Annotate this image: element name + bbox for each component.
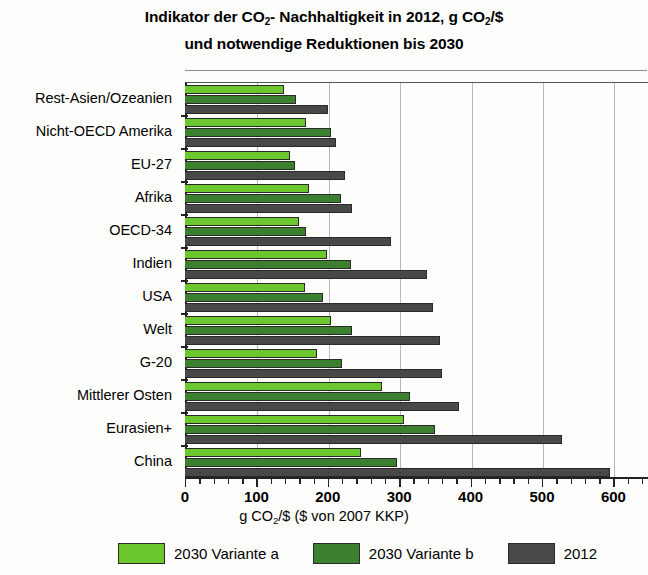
category-tick-9 — [181, 379, 188, 381]
x-tick-60 — [228, 479, 229, 484]
category-tick-5 — [181, 247, 188, 249]
bar-indien-2012 — [185, 270, 427, 280]
legend-item-1[interactable]: 2030 Variante a — [118, 543, 279, 564]
x-tick-580 — [599, 479, 600, 484]
legend-item-2[interactable]: 2030 Variante b — [313, 543, 474, 564]
bar-eurasien--2012 — [185, 435, 562, 445]
x-tick-40 — [214, 479, 215, 484]
x-tick-600 — [613, 479, 614, 487]
x-tick-380 — [456, 479, 457, 484]
category-label-oecd-34: OECD-34 — [109, 222, 172, 238]
category-label-eurasien-: Eurasien+ — [106, 420, 172, 436]
legend-label-3: 2012 — [564, 545, 597, 562]
x-axis-title: g CO2/$ ($ von 2007 KKP) — [0, 508, 648, 524]
title-separator — [185, 70, 647, 71]
legend-label-1: 2030 Variante a — [174, 545, 279, 562]
x-tick-480 — [528, 479, 529, 484]
bar-rest-asien-ozeanien-2030-variante-b — [185, 95, 296, 105]
bar-rest-asien-ozeanien-2012 — [185, 105, 328, 115]
legend-item-3[interactable]: 2012 — [508, 543, 597, 564]
bar-afrika-2030-variante-b — [185, 194, 341, 204]
category-label-usa: USA — [142, 288, 172, 304]
category-tick-8 — [181, 346, 188, 348]
category-label-welt: Welt — [143, 321, 172, 337]
bar-afrika-2012 — [185, 204, 352, 214]
category-tick-1 — [181, 115, 188, 117]
x-tick-260 — [371, 479, 372, 484]
title-sub-1: 2 — [265, 16, 270, 27]
x-tick-540 — [571, 479, 572, 484]
category-tick-10 — [181, 412, 188, 414]
gridline-500 — [543, 83, 544, 478]
bar-eurasien--2030-variante-a — [185, 415, 404, 425]
category-label-mittlerer-osten: Mittlerer Osten — [77, 387, 172, 403]
x-tick-20 — [199, 479, 200, 484]
bar-mittlerer-osten-2030-variante-b — [185, 392, 410, 402]
legend-swatch-1 — [118, 543, 165, 564]
bar-welt-2030-variante-a — [185, 316, 331, 326]
category-tick-6 — [181, 280, 188, 282]
bar-usa-2030-variante-b — [185, 293, 323, 303]
x-tick-560 — [585, 479, 586, 484]
x-axis-title-sub: 2 — [273, 515, 278, 526]
chart-title: Indikator der CO2- Nachhaltigkeit in 201… — [0, 4, 648, 56]
legend-label-2: 2030 Variante b — [369, 545, 474, 562]
title-sub-2: 2 — [485, 16, 490, 27]
bar-nicht-oecd-amerika-2030-variante-b — [185, 128, 331, 138]
x-tick-140 — [285, 479, 286, 484]
bar-oecd-34-2030-variante-a — [185, 217, 299, 227]
bar-eu-27-2030-variante-b — [185, 161, 295, 171]
category-tick-7 — [181, 313, 188, 315]
x-tick-500 — [542, 479, 543, 487]
x-tick-label-100: 100 — [244, 488, 269, 505]
x-axis-title-main: g CO — [239, 508, 273, 524]
x-tick-200 — [328, 479, 329, 487]
bar-usa-2012 — [185, 303, 433, 313]
x-tick-120 — [271, 479, 272, 484]
x-axis-line — [185, 477, 648, 479]
category-label-china: China — [134, 453, 172, 469]
category-label-g-20: G-20 — [140, 354, 172, 370]
category-label-nicht-oecd-amerika: Nicht-OECD Amerika — [36, 123, 172, 139]
bar-indien-2030-variante-b — [185, 260, 351, 270]
bar-rest-asien-ozeanien-2030-variante-a — [185, 85, 284, 95]
x-tick-360 — [442, 479, 443, 484]
category-label-indien: Indien — [132, 255, 172, 271]
legend-swatch-2 — [313, 543, 360, 564]
bar-eu-27-2012 — [185, 171, 345, 181]
x-tick-label-200: 200 — [315, 488, 340, 505]
x-tick-80 — [242, 479, 243, 484]
gridline-400 — [472, 83, 473, 478]
bar-g-20-2030-variante-b — [185, 359, 342, 369]
x-tick-520 — [556, 479, 557, 484]
bar-oecd-34-2030-variante-b — [185, 227, 306, 237]
bar-china-2030-variante-a — [185, 448, 361, 458]
chart-root: Indikator der CO2- Nachhaltigkeit in 201… — [0, 0, 648, 575]
x-tick-640 — [642, 479, 643, 484]
x-tick-420 — [485, 479, 486, 484]
x-tick-440 — [499, 479, 500, 484]
bar-indien-2030-variante-a — [185, 250, 327, 260]
category-tick-11 — [181, 445, 188, 447]
bar-china-2012 — [185, 468, 610, 478]
chart-title-line-2: und notwendige Reduktionen bis 2030 — [0, 31, 648, 56]
x-tick-220 — [342, 479, 343, 484]
x-tick-400 — [471, 479, 472, 487]
gridline-600 — [614, 83, 615, 478]
x-tick-320 — [413, 479, 414, 484]
bar-eu-27-2030-variante-a — [185, 151, 290, 161]
x-tick-label-400: 400 — [458, 488, 483, 505]
bar-g-20-2030-variante-a — [185, 349, 317, 359]
chart-title-line-1: Indikator der CO2- Nachhaltigkeit in 201… — [0, 4, 648, 31]
x-tick-0 — [185, 479, 186, 487]
category-tick-4 — [181, 214, 188, 216]
bar-eurasien--2030-variante-b — [185, 425, 435, 435]
x-tick-100 — [256, 479, 257, 487]
category-label-rest-asien-ozeanien: Rest-Asien/Ozeanien — [35, 90, 172, 106]
bar-afrika-2030-variante-a — [185, 184, 309, 194]
x-tick-label-300: 300 — [387, 488, 412, 505]
title-text-a: Indikator der CO — [145, 8, 265, 25]
bar-mittlerer-osten-2012 — [185, 402, 459, 412]
legend-swatch-3 — [508, 543, 555, 564]
bar-g-20-2012 — [185, 369, 442, 379]
